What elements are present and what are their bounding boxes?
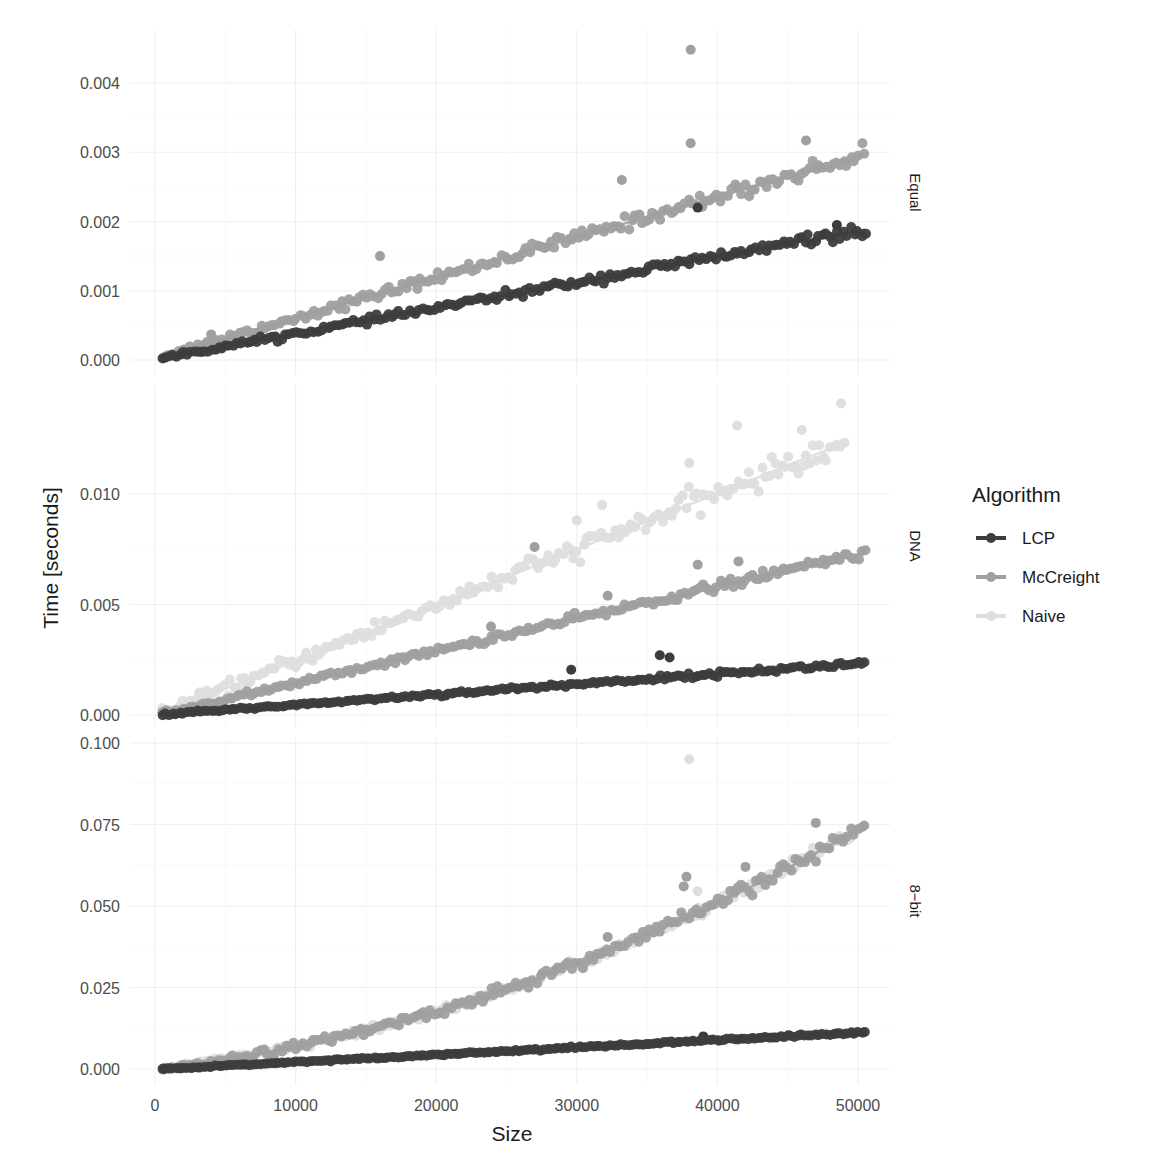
panel-equal: 0.0000.0010.0020.0030.004Equal (80, 30, 924, 375)
x-tick-label: 20000 (414, 1097, 459, 1114)
legend-label-lcp: LCP (1022, 529, 1055, 548)
y-tick-label: 0.100 (80, 735, 120, 752)
series-mccreight (157, 45, 869, 363)
legend-key-dot-icon (986, 533, 996, 543)
y-tick-label: 0.000 (80, 352, 120, 369)
y-tick-label: 0.075 (80, 817, 120, 834)
trend-line (162, 154, 865, 356)
legend-item-mccreight[interactable]: McCreight (976, 568, 1100, 587)
legend-title: Algorithm (972, 483, 1061, 506)
y-tick-label: 0.025 (80, 980, 120, 997)
y-tick-label: 0.003 (80, 144, 120, 161)
legend-key-dot-icon (986, 611, 996, 621)
y-tick-label: 0.050 (80, 898, 120, 915)
legend-label-naive: Naive (1022, 607, 1065, 626)
panel-dna: 0.0000.0050.010DNA (80, 385, 924, 727)
x-tick-label: 50000 (836, 1097, 881, 1114)
legend-label-mccreight: McCreight (1022, 568, 1100, 587)
trend-line (162, 826, 865, 1068)
y-tick-label: 0.004 (80, 75, 120, 92)
y-tick-label: 0.005 (80, 597, 120, 614)
x-tick-label: 0 (151, 1097, 160, 1114)
panel-8bit: 0.0000.0250.0500.0750.1008−bit (80, 735, 924, 1085)
legend: Algorithm LCP McCreight Naive (972, 483, 1100, 626)
strip-8bit-label: 8−bit (907, 885, 924, 919)
y-tick-label: 0.002 (80, 214, 120, 231)
y-tick-label: 0.000 (80, 707, 120, 724)
legend-key-dot-icon (986, 572, 996, 582)
x-tick-label: 10000 (273, 1097, 318, 1114)
strip-equal-label: Equal (907, 173, 924, 211)
series-naive (157, 754, 855, 1074)
legend-item-naive[interactable]: Naive (976, 607, 1065, 626)
panels-layer: 0.0000.0010.0020.0030.004Equal0.0000.005… (80, 30, 924, 1114)
y-tick-label: 0.010 (80, 486, 120, 503)
y-tick-label: 0.001 (80, 283, 120, 300)
x-tick-label: 40000 (695, 1097, 740, 1114)
y-tick-label: 0.000 (80, 1061, 120, 1078)
legend-item-lcp[interactable]: LCP (976, 529, 1055, 548)
trend-line (162, 230, 865, 358)
y-axis-title: Time [seconds] (39, 487, 62, 629)
x-axis-title: Size (492, 1122, 533, 1145)
faceted-scatter-chart: 0.0000.0010.0020.0030.004Equal0.0000.005… (0, 0, 1151, 1173)
x-tick-label: 30000 (555, 1097, 600, 1114)
series-lcp (158, 203, 871, 364)
strip-dna-label: DNA (907, 530, 924, 562)
